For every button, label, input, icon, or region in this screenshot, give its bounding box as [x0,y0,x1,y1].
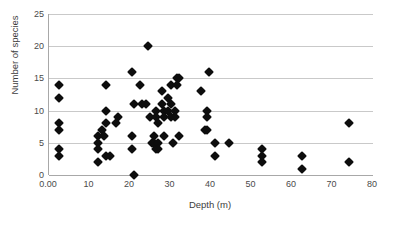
plot-area [48,14,373,175]
data-point [297,151,307,161]
scatter-chart: Number of species 0510152025 0.001020304… [0,0,393,229]
data-point [344,119,354,129]
data-point [54,125,64,135]
data-point [297,164,307,174]
gridline-y-25 [49,14,373,15]
data-point [101,106,111,116]
x-tick-label-60: 60 [286,179,296,189]
x-tick-label-30: 30 [164,179,174,189]
data-point [168,138,178,148]
x-axis-ticks: 0.001020304050607080 [48,179,372,193]
y-tick-label-5: 5 [4,138,48,147]
data-point [224,138,234,148]
x-axis-title: Depth (m) [48,199,372,210]
gridline-y-20 [49,46,373,47]
data-point [257,157,267,167]
x-tick-label-10: 10 [83,179,93,189]
x-tick-label-0.00: 0.00 [39,179,57,189]
data-point [204,67,214,77]
y-tick-label-20: 20 [4,42,48,51]
data-point [202,112,212,122]
y-tick-label-15: 15 [4,74,48,83]
data-point [101,80,111,90]
data-point [143,41,153,51]
data-point [54,93,64,103]
data-point [210,138,220,148]
data-point [344,157,354,167]
x-tick-label-70: 70 [326,179,336,189]
data-point [196,86,206,96]
data-point [93,157,103,167]
data-point [127,144,137,154]
data-point [54,151,64,161]
y-axis-ticks: 0510152025 [0,14,48,175]
x-tick-label-80: 80 [367,179,377,189]
y-tick-label-10: 10 [4,106,48,115]
data-point [159,131,169,141]
x-tick-label-50: 50 [245,179,255,189]
x-tick-label-40: 40 [205,179,215,189]
gridline-y-15 [49,78,373,79]
y-tick-label-25: 25 [4,10,48,19]
data-point [210,151,220,161]
gridline-y-0 [49,175,373,176]
data-point [127,67,137,77]
data-point [93,144,103,154]
data-point [127,131,137,141]
data-point [135,80,145,90]
x-tick-label-20: 20 [124,179,134,189]
data-point [54,80,64,90]
